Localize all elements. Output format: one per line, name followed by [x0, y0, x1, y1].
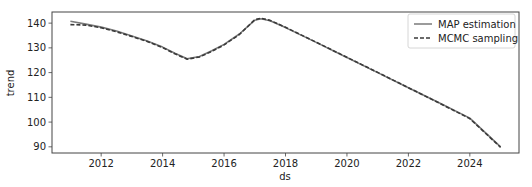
legend-label-map: MAP estimation [438, 19, 516, 30]
y-tick-label: 120 [27, 67, 46, 78]
x-tick-label: 2014 [150, 158, 175, 169]
legend: MAP estimation MCMC sampling [408, 14, 518, 48]
y-tick-label: 130 [27, 42, 46, 53]
x-tick-label: 2016 [211, 158, 236, 169]
y-tick-label: 90 [33, 141, 46, 152]
x-tick-label: 2012 [88, 158, 113, 169]
y-tick-label: 100 [27, 117, 46, 128]
x-axis-label: ds [279, 171, 291, 182]
x-tick-label: 2018 [273, 158, 298, 169]
y-tick-label: 140 [27, 18, 46, 29]
x-tick-label: 2020 [334, 158, 359, 169]
legend-label-mcmc: MCMC sampling [438, 33, 518, 44]
x-tick-label: 2024 [457, 158, 482, 169]
x-tick-label: 2022 [396, 158, 421, 169]
y-tick-label: 110 [27, 92, 46, 103]
trend-chart: 2012201420162018202020222024 90100110120… [0, 0, 532, 187]
x-axis: 2012201420162018202020222024 [88, 153, 482, 169]
y-axis: 90100110120130140 [27, 18, 52, 153]
y-axis-label: trend [5, 70, 16, 97]
